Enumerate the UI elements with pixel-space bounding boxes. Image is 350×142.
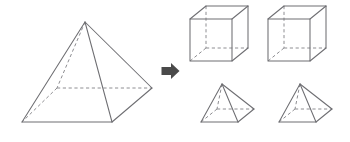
- figure-canvas: [0, 0, 350, 142]
- large-square-pyramid: [22, 22, 152, 122]
- arrow-right-icon: [162, 63, 180, 79]
- cube-1: [190, 6, 248, 61]
- pyramid-1: [201, 84, 254, 122]
- cube-2-face-front: [268, 19, 310, 61]
- cube-2: [268, 6, 326, 61]
- pyramid-2: [279, 84, 332, 122]
- cube-1-face-front: [190, 19, 232, 61]
- arrow-right-glyph: [162, 63, 180, 79]
- geometry-figure: [0, 0, 350, 142]
